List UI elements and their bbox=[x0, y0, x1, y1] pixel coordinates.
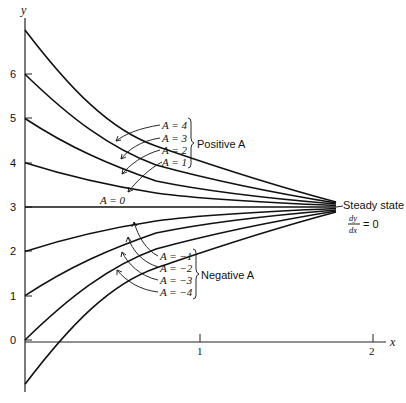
x-ticks: 1 2 bbox=[197, 334, 375, 357]
label-a-neg-2: A = −2 bbox=[159, 262, 193, 274]
label-a-4: A = 4 bbox=[161, 119, 187, 131]
y-tick-4: 4 bbox=[10, 157, 16, 169]
solution-curves-figure: y x 0 1 2 3 4 5 6 1 2 bbox=[0, 0, 406, 403]
dx-label: dx bbox=[349, 225, 357, 235]
label-a-1: A = 1 bbox=[161, 156, 187, 168]
y-tick-6: 6 bbox=[10, 68, 16, 80]
x-tick-1: 1 bbox=[197, 345, 203, 357]
y-tick-2: 2 bbox=[10, 245, 16, 257]
label-a-3: A = 3 bbox=[161, 132, 187, 144]
dy-label: dy bbox=[349, 213, 357, 223]
x-axis-label: x bbox=[389, 335, 396, 349]
steady-state-leader bbox=[336, 206, 343, 207]
solution-curves bbox=[25, 30, 343, 384]
label-a-0: A = 0 bbox=[99, 194, 125, 206]
positive-a-annotations: A = 4 A = 3 A = 2 A = 1 Positive A bbox=[116, 118, 246, 192]
label-a-neg-1: A = −1 bbox=[159, 250, 192, 262]
label-a-2: A = 2 bbox=[161, 144, 187, 156]
positive-a-group-label: Positive A bbox=[197, 138, 246, 150]
label-a-neg-4: A = −4 bbox=[159, 286, 193, 298]
y-tick-3: 3 bbox=[10, 201, 16, 213]
y-tick-1: 1 bbox=[10, 290, 16, 302]
y-tick-5: 5 bbox=[10, 112, 16, 124]
negative-a-group-label: Negative A bbox=[201, 269, 255, 281]
steady-state-annotation: Steady state dy dx = 0 bbox=[343, 199, 404, 235]
negative-a-annotations: A = −1 A = −2 A = −3 A = −4 Negative A bbox=[117, 222, 255, 299]
y-tick-0: 0 bbox=[10, 334, 16, 346]
label-a-neg-3: A = −3 bbox=[159, 274, 193, 286]
positive-brace bbox=[188, 118, 194, 168]
equals-zero-label: = 0 bbox=[363, 218, 379, 230]
steady-state-label: Steady state bbox=[343, 199, 404, 211]
y-axis-label: y bbox=[20, 3, 27, 17]
negative-brace bbox=[193, 249, 199, 299]
x-tick-2: 2 bbox=[369, 345, 375, 357]
